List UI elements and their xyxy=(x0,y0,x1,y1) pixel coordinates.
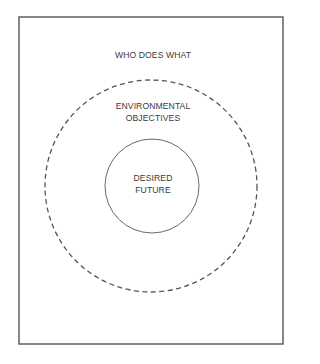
environmental-objectives-label: ENVIRONMENTAL OBJECTIVES xyxy=(100,101,206,124)
who-does-what-label: WHO DOES WHAT xyxy=(100,50,206,62)
desired-future-label: DESIRED FUTURE xyxy=(110,173,196,196)
